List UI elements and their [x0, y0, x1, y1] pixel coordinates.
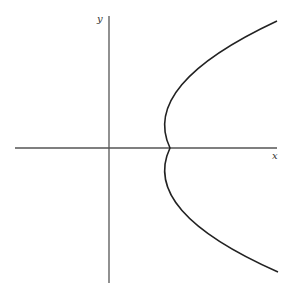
y-axis-label: y [97, 13, 103, 24]
parabola-curve [165, 21, 278, 272]
x-axis-label: x [272, 150, 278, 161]
plot-svg [0, 0, 294, 296]
diagram: y x [0, 0, 294, 296]
